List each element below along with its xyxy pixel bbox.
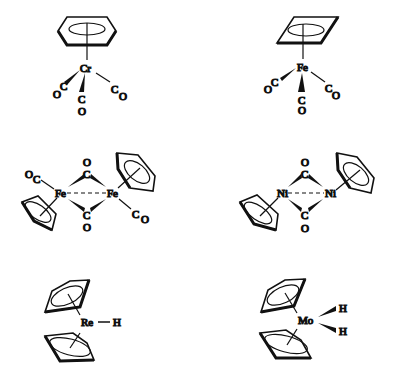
wedge-bond-icon <box>288 199 302 212</box>
wedge-bond-icon <box>90 199 106 212</box>
organometallic-structures-figure: Cr C O C O C O Fe C O C O C O Fe Fe <box>0 0 393 382</box>
svg-text:H: H <box>339 302 347 314</box>
svg-text:C: C <box>60 80 67 92</box>
svg-text:O: O <box>264 83 272 95</box>
svg-text:O: O <box>83 156 91 168</box>
svg-text:O: O <box>301 156 309 168</box>
benzene-ring-icon <box>58 17 116 60</box>
svg-text:C: C <box>132 208 139 220</box>
wedge-bond-icon <box>298 73 305 92</box>
cyclopentadienyl-ring-icon <box>117 153 155 191</box>
wedge-bond-icon <box>90 174 106 187</box>
svg-text:O: O <box>332 89 340 101</box>
svg-text:Fe: Fe <box>55 187 66 199</box>
wedge-bond-icon <box>318 323 336 333</box>
svg-text:C: C <box>271 76 278 88</box>
cyclopentadienyl-ring-icon <box>240 195 278 230</box>
svg-text:O: O <box>298 104 306 116</box>
svg-text:O: O <box>141 213 149 225</box>
cyclobutadiene-ring-icon <box>277 17 338 59</box>
svg-text:Mo: Mo <box>298 314 314 326</box>
svg-text:Ni: Ni <box>325 187 336 199</box>
structure-fe-cyclobutadiene-tricarbonyl: Fe C O C O C O <box>264 17 340 116</box>
svg-text:H: H <box>339 325 347 337</box>
wedge-bond-icon <box>79 73 85 92</box>
metal-label: Cr <box>80 62 91 74</box>
svg-text:C: C <box>111 83 118 95</box>
cyclopentadienyl-ring-icon <box>261 279 305 313</box>
svg-text:C: C <box>78 93 85 105</box>
svg-text:Fe: Fe <box>107 187 118 199</box>
svg-text:Fe: Fe <box>297 61 308 73</box>
svg-text:Re: Re <box>81 316 93 328</box>
svg-text:O: O <box>83 221 91 233</box>
svg-text:C: C <box>33 173 40 185</box>
svg-text:O: O <box>78 105 86 117</box>
structure-re-cp2-hydride: Re H <box>45 280 121 361</box>
svg-text:H: H <box>113 316 121 328</box>
cyclopentadienyl-ring-icon <box>22 196 57 230</box>
svg-text:Ni: Ni <box>277 187 288 199</box>
structure-fe-cp-carbonyl-dimer: Fe Fe C O C O O C C O <box>22 153 155 233</box>
svg-text:C: C <box>83 168 90 180</box>
wedge-bond-icon <box>288 174 302 187</box>
svg-text:O: O <box>53 88 61 100</box>
cyclopentadienyl-ring-icon <box>45 280 89 315</box>
cyclopentadienyl-ring-icon <box>45 333 94 361</box>
structure-mo-cp2-dihydride: Mo H H <box>260 279 347 358</box>
structure-ni-cp-carbonyl-dimer: Ni Ni C O C O <box>240 153 374 234</box>
wedge-bond-icon <box>318 306 336 317</box>
structure-cr-benzene-tricarbonyl: Cr C O C O C O <box>53 17 127 117</box>
svg-text:O: O <box>25 168 33 180</box>
wedge-bond-icon <box>308 199 323 212</box>
svg-text:C: C <box>301 168 308 180</box>
svg-text:O: O <box>301 222 309 234</box>
wedge-bond-icon <box>308 174 323 187</box>
svg-text:C: C <box>83 209 90 221</box>
cyclopentadienyl-ring-icon <box>336 153 374 193</box>
cyclopentadienyl-ring-icon <box>260 329 311 358</box>
svg-text:O: O <box>119 90 127 102</box>
svg-text:C: C <box>301 209 308 221</box>
wedge-bond-icon <box>280 68 296 81</box>
